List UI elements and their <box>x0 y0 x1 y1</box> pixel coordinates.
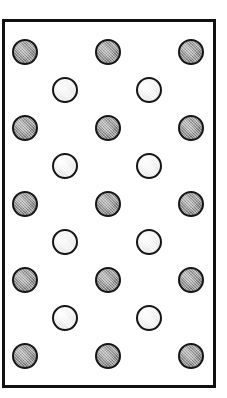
lattice-circle-gray <box>178 115 204 141</box>
lattice-circle-white <box>136 153 162 179</box>
lattice-circle-gray <box>178 191 204 217</box>
figure-root <box>0 0 227 398</box>
unit-cell-box <box>2 19 216 388</box>
lattice-circle-gray <box>12 191 38 217</box>
lattice-circle-white <box>136 77 162 103</box>
lattice-circle-white <box>52 153 78 179</box>
lattice-layer <box>5 22 213 385</box>
lattice-circle-gray <box>178 267 204 293</box>
lattice-circle-gray <box>178 39 204 65</box>
lattice-circle-white <box>52 229 78 255</box>
lattice-circle-gray <box>95 343 121 369</box>
lattice-circle-gray <box>12 267 38 293</box>
lattice-circle-white <box>52 77 78 103</box>
lattice-circle-gray <box>95 39 121 65</box>
lattice-circle-gray <box>12 343 38 369</box>
lattice-circle-gray <box>95 267 121 293</box>
lattice-circle-gray <box>12 115 38 141</box>
lattice-circle-gray <box>178 343 204 369</box>
lattice-circle-white <box>52 305 78 331</box>
lattice-circle-gray <box>12 39 38 65</box>
lattice-circle-white <box>136 305 162 331</box>
lattice-circle-white <box>136 229 162 255</box>
lattice-circle-gray <box>95 191 121 217</box>
lattice-circle-gray <box>95 115 121 141</box>
